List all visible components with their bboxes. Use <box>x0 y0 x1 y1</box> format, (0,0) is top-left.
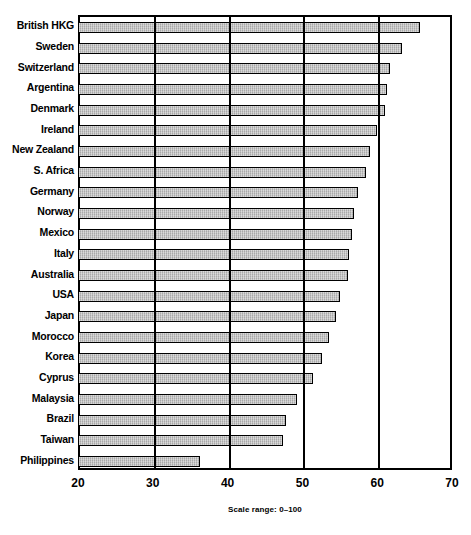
x-tick-label: 50 <box>296 476 309 490</box>
category-label: USA <box>0 284 74 305</box>
x-tick-label: 60 <box>371 476 384 490</box>
bar <box>78 291 340 302</box>
category-label: Mexico <box>0 222 74 243</box>
bar <box>78 63 390 74</box>
bar-row <box>80 58 450 79</box>
category-label: Brazil <box>0 408 74 429</box>
x-axis-tick-labels: 203040506070 <box>78 476 452 492</box>
bar <box>78 332 329 343</box>
bar-row <box>80 389 450 410</box>
bar <box>78 311 336 322</box>
bar-row <box>80 203 450 224</box>
bar-row <box>80 224 450 245</box>
category-label: Malaysia <box>0 387 74 408</box>
bar <box>78 353 322 364</box>
gridline-30 <box>154 17 156 468</box>
bar-row <box>80 265 450 286</box>
bar <box>78 43 402 54</box>
category-label: Italy <box>0 243 74 264</box>
bar <box>78 84 387 95</box>
bar <box>78 125 377 136</box>
bar-row <box>80 451 450 472</box>
bar <box>78 22 420 33</box>
category-axis-labels: British HKGSwedenSwitzerlandArgentinaDen… <box>0 15 74 470</box>
bar <box>78 270 348 281</box>
x-tick-label: 70 <box>445 476 458 490</box>
bar-row <box>80 141 450 162</box>
category-label: Denmark <box>0 98 74 119</box>
gridline-50 <box>303 17 305 468</box>
bar <box>78 208 354 219</box>
gridline-40 <box>229 17 231 468</box>
x-tick-label: 20 <box>71 476 84 490</box>
category-label: Cyprus <box>0 367 74 388</box>
bar <box>78 167 366 178</box>
bar <box>78 394 297 405</box>
bar-row <box>80 245 450 266</box>
category-label: Germany <box>0 180 74 201</box>
category-label: Korea <box>0 346 74 367</box>
category-label: Argentina <box>0 77 74 98</box>
category-label: New Zealand <box>0 139 74 160</box>
category-label: S. Africa <box>0 160 74 181</box>
bar-row <box>80 100 450 121</box>
bar <box>78 415 286 426</box>
bar <box>78 105 385 116</box>
category-label: Australia <box>0 263 74 284</box>
bar <box>78 373 313 384</box>
category-label: British HKG <box>0 15 74 36</box>
category-label: Taiwan <box>0 429 74 450</box>
bar-row <box>80 79 450 100</box>
bar <box>78 146 370 157</box>
bar-row <box>80 120 450 141</box>
scale-range-note: Scale range: 0–100 <box>78 505 452 514</box>
bar <box>78 435 283 446</box>
plot-area <box>78 15 452 470</box>
category-label: Ireland <box>0 118 74 139</box>
category-label: Sweden <box>0 36 74 57</box>
bar-row <box>80 431 450 452</box>
bar-row <box>80 369 450 390</box>
bar-rows <box>80 17 450 468</box>
category-label: Switzerland <box>0 56 74 77</box>
bar-row <box>80 307 450 328</box>
category-label: Morocco <box>0 325 74 346</box>
category-label: Philippines <box>0 449 74 470</box>
gridline-60 <box>378 17 380 468</box>
bar-row <box>80 182 450 203</box>
bar-row <box>80 327 450 348</box>
bar-row <box>80 286 450 307</box>
category-label: Norway <box>0 201 74 222</box>
bar <box>78 187 358 198</box>
bar-row <box>80 17 450 38</box>
category-label: Japan <box>0 305 74 326</box>
bar-row <box>80 38 450 59</box>
bar-row <box>80 162 450 183</box>
x-tick-label: 40 <box>221 476 234 490</box>
bar <box>78 456 200 467</box>
bar-chart: British HKGSwedenSwitzerlandArgentinaDen… <box>0 0 471 535</box>
bar <box>78 249 349 260</box>
x-tick-label: 30 <box>146 476 159 490</box>
bar <box>78 229 352 240</box>
bar-row <box>80 348 450 369</box>
bar-row <box>80 410 450 431</box>
